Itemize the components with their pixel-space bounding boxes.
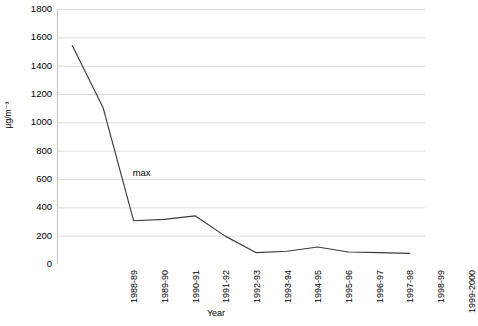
y-axis-tick-label: 1600 (22, 32, 52, 42)
x-axis-tick-label: 1996-97 (374, 270, 386, 326)
y-axis-tick-label: 200 (22, 231, 52, 241)
y-axis-tick-label: 400 (22, 202, 52, 212)
x-axis-tick-label: 1989-90 (159, 270, 171, 326)
x-axis-tick-label: 1994-95 (312, 270, 324, 326)
x-axis-tick-label: 1992-93 (251, 270, 263, 326)
x-axis-tick-label: 1993-94 (282, 270, 294, 326)
y-axis-tick-label: 0 (22, 259, 52, 269)
x-axis-tick-label: 1999-2000 (466, 270, 478, 326)
y-axis-tick-label: 600 (22, 174, 52, 184)
axis-lines (57, 9, 425, 264)
x-axis-tick-label: 1998-99 (435, 270, 447, 326)
max-series-annotation: max (133, 167, 151, 178)
plot-area (57, 9, 425, 264)
x-axis-tick-label: 1997-98 (404, 270, 416, 326)
x-axis-tick-label: 1995-96 (343, 270, 355, 326)
y-axis-title: µg/m⁻³ (3, 90, 13, 140)
x-axis-title: Year (186, 308, 246, 319)
x-axis-tick-label: 1988-89 (128, 270, 140, 326)
y-axis-tick-labels: 020040060080010001200140016001800 (18, 0, 52, 326)
y-axis-tick-label: 1200 (22, 89, 52, 99)
y-axis-tick-label: 1400 (22, 61, 52, 71)
gridlines (57, 10, 425, 265)
y-axis-tick-label: 800 (22, 146, 52, 156)
data-series-max (72, 46, 409, 254)
plot-svg (57, 9, 425, 264)
y-axis-tick-label: 1800 (22, 4, 52, 14)
y-axis-tick-label: 1000 (22, 117, 52, 127)
